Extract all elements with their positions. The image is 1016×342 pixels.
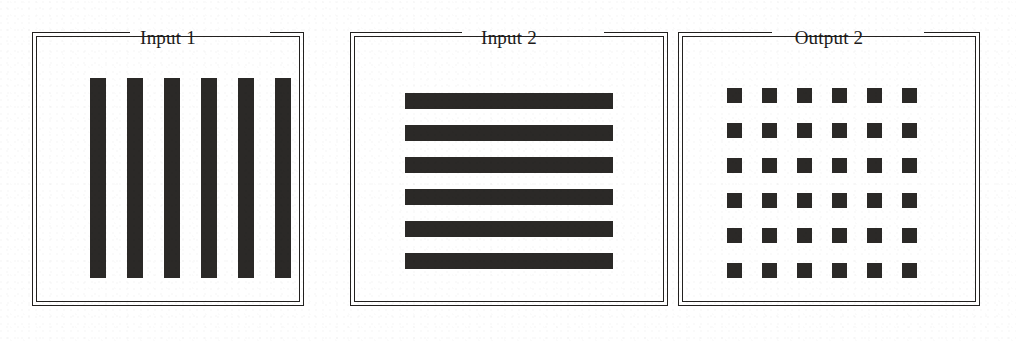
grid-square-mark [762,263,777,278]
grid-square-mark [832,158,847,173]
grid-square-mark [902,88,917,103]
grid-square-mark [832,263,847,278]
figure-panel-output-2: Output 2 [678,32,980,306]
grid-square-mark [902,123,917,138]
vertical-bar-mark [275,78,291,278]
vertical-bar-mark [127,78,143,278]
grid-square-mark [867,123,882,138]
grid-square-mark [762,123,777,138]
horizontal-stripe-mark [405,93,613,109]
grid-square-mark [727,193,742,208]
grid-square-mark [797,123,812,138]
figure-panel-input-1: Input 1 [32,32,304,306]
panel-plot-area [355,37,663,301]
grid-square-mark [762,88,777,103]
grid-square-mark [902,193,917,208]
grid-square-mark [902,228,917,243]
vertical-bar-mark [238,78,254,278]
horizontal-stripe-mark [405,125,613,141]
vertical-bar-mark [201,78,217,278]
grid-square-mark [727,88,742,103]
grid-square-mark [762,193,777,208]
grid-square-mark [797,263,812,278]
grid-square-mark [832,228,847,243]
vertical-bar-mark [90,78,106,278]
grid-square-mark [727,123,742,138]
panel-title-input-1: Input 1 [32,28,304,47]
grid-square-mark [797,158,812,173]
grid-square-mark [867,193,882,208]
grid-square-mark [727,263,742,278]
figure-panel-input-2: Input 2 [350,32,668,306]
grid-square-mark [867,158,882,173]
horizontal-stripe-mark [405,253,613,269]
grid-square-mark [797,228,812,243]
grid-square-mark [832,123,847,138]
panel-title-input-2: Input 2 [350,28,668,47]
grid-square-mark [727,158,742,173]
horizontal-stripe-mark [405,157,613,173]
grid-square-mark [797,193,812,208]
panel-plot-area [37,37,299,301]
grid-square-mark [762,228,777,243]
grid-square-mark [867,263,882,278]
grid-square-mark [832,193,847,208]
grid-square-mark [902,263,917,278]
grid-square-mark [902,158,917,173]
grid-square-mark [832,88,847,103]
panel-title-output-2: Output 2 [678,28,980,47]
grid-square-mark [797,88,812,103]
horizontal-stripe-mark [405,221,613,237]
figure-panel-row: Input 1Input 2Output 2 [0,0,1016,342]
vertical-bar-mark [164,78,180,278]
panel-plot-area [683,37,975,301]
grid-square-mark [727,228,742,243]
horizontal-stripe-mark [405,189,613,205]
grid-square-mark [867,228,882,243]
grid-square-mark [762,158,777,173]
grid-square-mark [867,88,882,103]
